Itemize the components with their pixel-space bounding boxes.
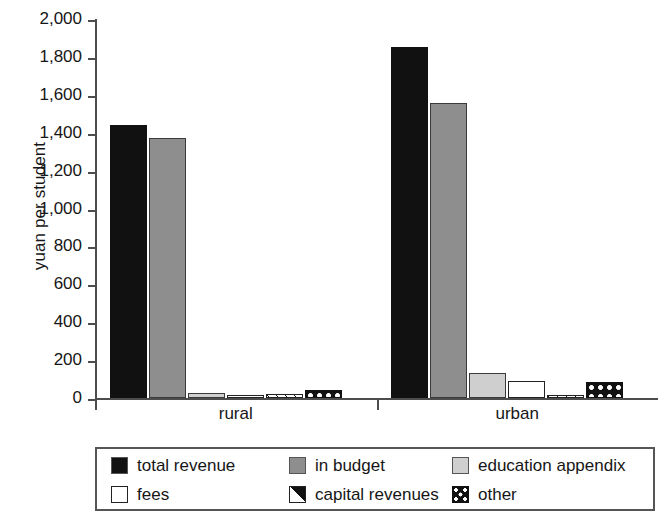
legend-label: other: [478, 486, 517, 503]
legend-swatch-capital-revenues-icon: [289, 486, 306, 503]
y-axis-tick-mark: [88, 247, 95, 249]
y-axis-line: [95, 19, 97, 400]
y-axis-tick-label: 600: [24, 275, 82, 292]
y-axis-tick-label: 1,000: [24, 200, 82, 217]
y-axis-tick-label: 800: [24, 237, 82, 254]
bar-rural-total-revenue: [110, 125, 147, 398]
bar-urban-fees: [508, 381, 545, 398]
y-axis-tick-label: 1,400: [24, 124, 82, 141]
bar-rural-in-budget: [149, 138, 186, 398]
y-axis-tick-mark: [88, 134, 95, 136]
legend-label: total revenue: [137, 457, 235, 474]
legend-label: in budget: [315, 457, 385, 474]
legend-label: fees: [137, 486, 169, 503]
legend-swatch-other-icon: [452, 486, 469, 503]
legend-swatch-education-appendix-icon: [452, 457, 469, 474]
legend-item-capital-revenues[interactable]: capital revenues: [289, 480, 439, 509]
y-axis-tick-label: 400: [24, 313, 82, 330]
bar-urban-other: [586, 382, 623, 398]
y-axis-tick-mark: [88, 361, 95, 363]
y-axis-tick-label: 0: [24, 389, 82, 406]
legend-swatch-fees-icon: [111, 486, 128, 503]
y-axis-tick-label: 1,600: [24, 86, 82, 103]
x-axis-group-label-rural: rural: [95, 404, 377, 424]
legend-item-total-revenue[interactable]: total revenue: [111, 451, 235, 480]
legend-label: education appendix: [478, 457, 625, 474]
x-axis-group-label-urban: urban: [377, 404, 659, 424]
bar-chart: yuan per student 2,0001,8001,6001,4001,2…: [0, 0, 662, 519]
bar-rural-fees: [227, 395, 264, 398]
legend-label: capital revenues: [315, 486, 439, 503]
y-axis-tick-mark: [88, 323, 95, 325]
bar-urban-total-revenue: [391, 47, 428, 398]
bar-rural-other: [305, 390, 342, 398]
y-axis-tick-mark: [88, 172, 95, 174]
bar-rural-capital-revenues: [266, 394, 303, 398]
y-axis-tick-labels: 2,0001,8001,6001,4001,2001,0008006004002…: [24, 0, 82, 519]
plot-area: [95, 19, 658, 399]
bar-urban-education-appendix: [469, 373, 506, 398]
bar-rural-education-appendix: [188, 393, 225, 398]
legend-item-in-budget[interactable]: in budget: [289, 451, 385, 480]
y-axis-tick-mark: [88, 96, 95, 98]
chart-legend: total revenuein budgeteducation appendix…: [95, 447, 655, 511]
legend-row: total revenuein budgeteducation appendix: [97, 451, 653, 480]
y-axis-tick-mark: [88, 399, 95, 401]
legend-item-fees[interactable]: fees: [111, 480, 169, 509]
legend-swatch-in-budget-icon: [289, 457, 306, 474]
bar-urban-capital-revenues: [547, 395, 584, 398]
y-axis-tick-mark: [88, 20, 95, 22]
y-axis-tick-label: 1,200: [24, 162, 82, 179]
bar-urban-in-budget: [430, 103, 467, 398]
y-axis-tick-mark: [88, 210, 95, 212]
legend-row: feescapital revenuesother: [97, 480, 653, 509]
y-axis-tick-label: 200: [24, 351, 82, 368]
y-axis-tick-mark: [88, 58, 95, 60]
y-axis-tick-label: 2,000: [24, 10, 82, 27]
y-axis-tick-mark: [88, 285, 95, 287]
legend-item-other[interactable]: other: [452, 480, 517, 509]
legend-swatch-total-revenue-icon: [111, 457, 128, 474]
y-axis-tick-label: 1,800: [24, 48, 82, 65]
legend-item-education-appendix[interactable]: education appendix: [452, 451, 625, 480]
